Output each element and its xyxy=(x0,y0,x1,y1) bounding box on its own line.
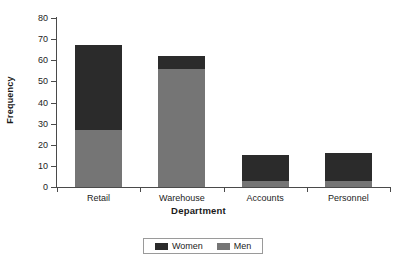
y-tick-mark xyxy=(51,166,56,167)
x-category-label: Personnel xyxy=(307,193,390,203)
bar-segment-men xyxy=(242,181,289,187)
y-tick-label: 20 xyxy=(38,141,48,150)
y-tick-label: 0 xyxy=(43,183,48,192)
y-tick-label: 10 xyxy=(38,162,48,171)
x-tick-mark xyxy=(390,187,391,192)
bar-segment-women xyxy=(75,45,122,130)
plot-area: 01020304050607080 xyxy=(57,18,390,187)
legend-entry-women[interactable]: Women xyxy=(151,242,207,251)
x-axis-title-label: Department xyxy=(171,205,226,216)
legend-label: Men xyxy=(234,242,252,251)
chart-legend: WomenMen xyxy=(143,238,263,254)
x-tick-mark xyxy=(224,187,225,192)
y-tick-mark xyxy=(51,103,56,104)
y-tick-mark xyxy=(51,124,56,125)
y-tick-mark xyxy=(51,39,56,40)
bar-retail xyxy=(75,45,122,187)
x-category-label: Retail xyxy=(57,193,140,203)
legend-entry-men[interactable]: Men xyxy=(213,242,256,251)
bar-accounts xyxy=(242,155,289,187)
x-tick-mark xyxy=(140,187,141,192)
x-category-label: Accounts xyxy=(224,193,307,203)
stacked-bar-chart: Frequency 01020304050607080 RetailWareho… xyxy=(0,0,397,267)
bar-personnel xyxy=(325,153,372,187)
legend-swatch-women xyxy=(155,243,168,250)
y-tick-label: 40 xyxy=(38,99,48,108)
bar-segment-men xyxy=(158,69,205,187)
y-tick-mark xyxy=(51,81,56,82)
legend-swatch-men xyxy=(217,243,230,250)
legend-label: Women xyxy=(172,242,203,251)
y-tick-label: 60 xyxy=(38,56,48,65)
y-tick-label: 30 xyxy=(38,120,48,129)
y-tick-mark xyxy=(51,187,56,188)
bar-segment-women xyxy=(325,153,372,180)
y-axis-title: Frequency xyxy=(2,0,18,200)
x-axis-title: Department xyxy=(0,205,397,216)
y-tick-mark xyxy=(51,18,56,19)
x-category-label: Warehouse xyxy=(140,193,223,203)
y-axis-title-label: Frequency xyxy=(5,76,15,123)
y-tick-mark xyxy=(51,145,56,146)
y-tick-label: 80 xyxy=(38,14,48,23)
bar-segment-women xyxy=(158,56,205,69)
y-tick-mark xyxy=(51,60,56,61)
x-tick-mark xyxy=(57,187,58,192)
x-tick-mark xyxy=(307,187,308,192)
y-tick-label: 70 xyxy=(38,35,48,44)
bar-segment-men xyxy=(325,181,372,187)
y-tick-label: 50 xyxy=(38,77,48,86)
bar-segment-men xyxy=(75,130,122,187)
bar-warehouse xyxy=(158,56,205,187)
bar-segment-women xyxy=(242,155,289,180)
